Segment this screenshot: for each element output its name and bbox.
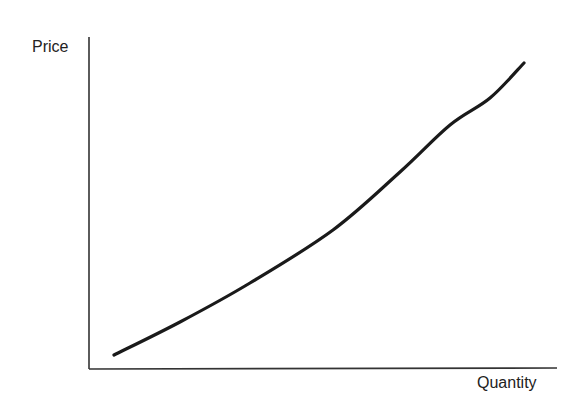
chart-container: Price Quantity (0, 0, 587, 416)
price-quantity-curve (114, 63, 524, 355)
x-axis (89, 368, 557, 369)
plot-area (0, 0, 587, 416)
